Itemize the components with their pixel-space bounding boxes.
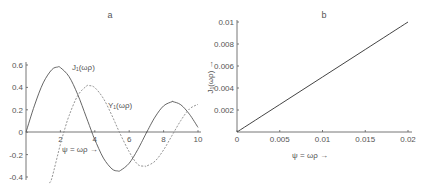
panel-a-title: a (107, 10, 112, 20)
panel-b-title: b (321, 10, 326, 20)
j1-curve (26, 67, 198, 172)
panel-a-x-tick-label: 10 (194, 135, 203, 144)
panel-b-y-label: J₁(ωρ) → (206, 60, 215, 93)
panel-a-x-tick-label: 8 (161, 135, 166, 144)
figure: a 0.60.40.20-0.2-0.4 246810 J₁(ωρ) Y₁(ωρ… (0, 0, 427, 188)
panel-a: a 0.60.40.20-0.2-0.4 246810 J₁(ωρ) Y₁(ωρ… (9, 10, 203, 183)
panel-b-x-tick-label: 0.005 (270, 135, 291, 144)
panel-b-j1-line (237, 22, 408, 132)
panel-b-y-tick-label: 0.004 (214, 84, 235, 93)
panel-a-y-tick-label: 0.2 (12, 106, 24, 115)
panel-b-y-tick-label: 0.006 (214, 62, 235, 71)
panel-a-y-tick-label: 0 (19, 128, 24, 137)
panel-a-x-label: ψ = ωρ → (62, 145, 98, 154)
panel-b-x-tick-label: 0.01 (315, 135, 331, 144)
panel-a-x-tick-label: 6 (127, 135, 132, 144)
panel-b-y-tick-label: 0.01 (218, 18, 234, 27)
panel-b-y-tick-label: 0.002 (214, 106, 235, 115)
panel-b: b 0.010.0080.0060.0040.002 00.0050.010.0… (206, 10, 416, 160)
panel-a-y-tick-label: 0.4 (12, 83, 24, 92)
panel-b-x-tick-label: 0.02 (400, 135, 416, 144)
j1-curve-label: J₁(ωρ) (72, 63, 95, 72)
panel-b-x-tick-label: 0 (235, 135, 240, 144)
panel-b-y-tick-label: 0.008 (214, 40, 235, 49)
panel-b-x-label: ψ = ωρ → (292, 151, 328, 160)
panel-a-y-tick-label: -0.4 (9, 173, 23, 182)
panel-a-x-tick-label: 2 (58, 135, 63, 144)
panel-a-y-tick-label: 0.6 (12, 61, 24, 70)
y1-curve-label: Y₁(ωρ) (108, 101, 132, 110)
panel-a-y-tick-label: -0.2 (9, 151, 23, 160)
panel-b-x-tick-label: 0.015 (355, 135, 376, 144)
